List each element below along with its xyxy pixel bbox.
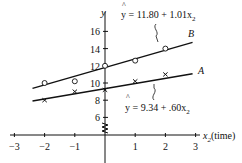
- y-tick-label: 6: [95, 112, 100, 123]
- point-b: [103, 63, 108, 68]
- arrow-a-icon: [153, 84, 155, 100]
- x-tick-label: −1: [69, 141, 80, 152]
- y-tick-label: 16: [90, 26, 100, 37]
- y-tick-label: 14: [90, 44, 100, 55]
- fit-line-a: [33, 74, 193, 101]
- axis-break-icon: [102, 123, 108, 133]
- x-tick-label: 1: [133, 141, 138, 152]
- point-b: [133, 58, 138, 63]
- fit-line-b: [33, 42, 193, 88]
- line-b-label: B: [188, 28, 194, 39]
- point-a: [133, 79, 137, 83]
- point-a: [73, 90, 77, 94]
- y-axis-label: y: [100, 6, 106, 18]
- x-tick-label: 2: [163, 141, 168, 152]
- equation-b: y = 11.80 + 1.01x2: [121, 9, 196, 23]
- y-tick-label: 10: [90, 78, 100, 89]
- equation-a: y = 9.34 + .60x2: [125, 102, 190, 116]
- y-tick-label: 8: [95, 95, 100, 106]
- eq-a-hat: ^: [126, 93, 130, 102]
- point-b: [42, 81, 47, 86]
- x-ticks: −3−2−1123: [9, 133, 198, 152]
- regression-lines: [33, 42, 193, 101]
- line-a-label: A: [197, 65, 205, 76]
- x-tick-label: 3: [193, 141, 198, 152]
- point-a: [163, 72, 167, 76]
- regression-chart: −3−2−1123 6810121416 y x2(time) B A ^ y …: [0, 0, 242, 163]
- arrow-b-icon: [155, 24, 158, 42]
- point-b: [163, 46, 168, 51]
- x-tick-label: −2: [39, 141, 50, 152]
- x-axis-label: x2(time): [202, 130, 235, 144]
- point-b: [72, 79, 77, 84]
- x-tick-label: −3: [9, 141, 20, 152]
